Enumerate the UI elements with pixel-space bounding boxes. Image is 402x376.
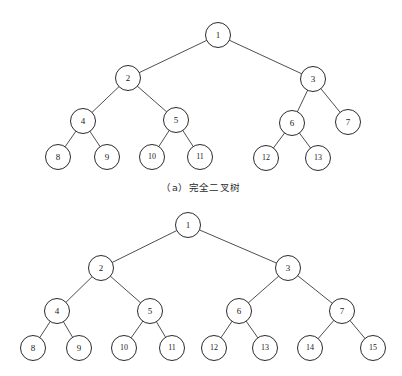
tree-node-11: 11 xyxy=(188,145,213,170)
tree-node-10: 10 xyxy=(140,145,165,170)
tree-edge xyxy=(159,130,169,146)
tree-node-4: 4 xyxy=(45,299,70,324)
tree-edge xyxy=(350,321,365,339)
tree-edge xyxy=(66,277,92,303)
tree-node-8: 8 xyxy=(46,145,71,170)
tree-node-10: 10 xyxy=(112,336,137,361)
tree-node-circle xyxy=(276,256,301,281)
tree-edge xyxy=(156,322,165,338)
tree-node-circle xyxy=(160,336,185,361)
tree-node-6: 6 xyxy=(280,111,305,136)
tree-node-1: 1 xyxy=(176,213,201,238)
tree-node-14: 14 xyxy=(298,336,323,361)
tree-edge xyxy=(63,322,72,338)
tree-node-circle xyxy=(138,299,163,324)
tree-node-2: 2 xyxy=(116,66,141,91)
tree-edge xyxy=(131,321,143,338)
tree-edge xyxy=(40,321,50,337)
tree-edge xyxy=(92,87,119,113)
tree-edge xyxy=(321,89,340,113)
tree-edge xyxy=(110,276,140,303)
tree-node-5: 5 xyxy=(164,108,189,133)
tree-edge xyxy=(297,90,307,111)
tree-node-5: 5 xyxy=(138,299,163,324)
binary-tree-figure: 12345678910111213 123456789101112131415 … xyxy=(0,0,402,376)
tree-node-circle xyxy=(254,146,279,171)
tree-node-9: 9 xyxy=(67,336,92,361)
tree-node-9: 9 xyxy=(95,145,120,170)
tree-node-circle xyxy=(280,111,305,136)
tree-node-13: 13 xyxy=(306,146,331,171)
tree-node-12: 12 xyxy=(254,146,279,171)
full-binary-tree-nodes: 123456789101112131415 xyxy=(21,213,386,361)
full-binary-tree-edges xyxy=(40,230,365,339)
tree-node-7: 7 xyxy=(336,110,361,135)
tree-node-circle xyxy=(336,110,361,135)
tree-node-6: 6 xyxy=(227,299,252,324)
tree-node-4: 4 xyxy=(71,109,96,134)
tree-edge xyxy=(112,231,177,263)
tree-edge xyxy=(139,40,206,72)
figure-caption-a: （a）完全二叉树 xyxy=(0,180,402,194)
tree-edge xyxy=(137,86,166,112)
tree-node-circle xyxy=(89,256,114,281)
tree-node-11: 11 xyxy=(160,336,185,361)
tree-node-circle xyxy=(21,336,46,361)
tree-node-circle xyxy=(253,336,278,361)
tree-edge xyxy=(248,276,278,303)
tree-node-13: 13 xyxy=(253,336,278,361)
tree-node-3: 3 xyxy=(301,67,326,92)
tree-node-circle xyxy=(188,145,213,170)
tree-node-circle xyxy=(67,336,92,361)
tree-edge xyxy=(90,131,100,146)
tree-node-circle xyxy=(202,336,227,361)
tree-node-circle xyxy=(306,146,331,171)
tree-edge xyxy=(298,276,332,303)
tree-node-3: 3 xyxy=(276,256,301,281)
tree-edge xyxy=(318,320,334,338)
tree-edge xyxy=(246,321,258,338)
tree-edge xyxy=(183,130,193,146)
tree-node-circle xyxy=(298,336,323,361)
tree-node-circle xyxy=(330,299,355,324)
tree-node-circle xyxy=(227,299,252,324)
tree-node-circle xyxy=(361,336,386,361)
tree-edge xyxy=(221,321,232,337)
tree-node-circle xyxy=(112,336,137,361)
tree-edge xyxy=(273,133,284,148)
tree-node-15: 15 xyxy=(361,336,386,361)
tree-edge xyxy=(299,133,310,148)
complete-binary-tree-nodes: 12345678910111213 xyxy=(46,23,361,171)
tree-node-circle xyxy=(176,213,201,238)
tree-edge xyxy=(229,40,301,74)
tree-edge xyxy=(65,131,76,146)
tree-node-8: 8 xyxy=(21,336,46,361)
tree-node-circle xyxy=(164,108,189,133)
tree-node-circle xyxy=(301,67,326,92)
tree-node-circle xyxy=(46,145,71,170)
tree-node-1: 1 xyxy=(206,23,231,48)
tree-edge xyxy=(199,230,276,263)
tree-node-circle xyxy=(116,66,141,91)
tree-node-circle xyxy=(71,109,96,134)
tree-node-circle xyxy=(140,145,165,170)
tree-node-12: 12 xyxy=(202,336,227,361)
tree-node-circle xyxy=(95,145,120,170)
tree-node-7: 7 xyxy=(330,299,355,324)
tree-node-2: 2 xyxy=(89,256,114,281)
tree-node-circle xyxy=(45,299,70,324)
tree-node-circle xyxy=(206,23,231,48)
